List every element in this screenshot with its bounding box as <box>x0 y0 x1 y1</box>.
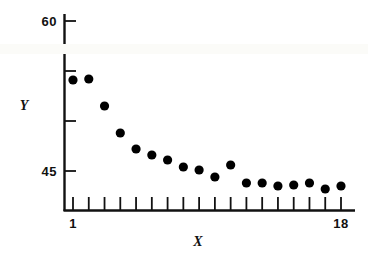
data-point <box>179 162 188 171</box>
data-point <box>116 128 125 137</box>
data-point <box>242 178 251 187</box>
data-point <box>258 178 267 187</box>
chart-canvas: 60 45 Y 1 18 X <box>0 0 368 259</box>
data-point <box>84 74 93 83</box>
data-point <box>131 144 140 153</box>
x-axis-ticks <box>73 197 341 210</box>
data-point <box>163 155 172 164</box>
data-point <box>100 101 109 110</box>
x-axis-title: X <box>192 234 203 249</box>
data-point <box>210 172 219 181</box>
data-point <box>305 178 314 187</box>
data-point <box>273 181 282 190</box>
scatter-chart-figure: 60 45 Y 1 18 X <box>0 0 368 259</box>
x-tick-label-last: 18 <box>333 216 348 231</box>
y-axis-title: Y <box>20 98 30 113</box>
y-axis-ticks <box>65 21 76 171</box>
data-point <box>336 181 345 190</box>
scatter-points-group <box>68 74 345 193</box>
y-tick-label-45: 45 <box>42 164 57 179</box>
data-point <box>321 184 330 193</box>
data-point <box>68 75 77 84</box>
data-point <box>289 180 298 189</box>
y-tick-label-60: 60 <box>42 14 57 29</box>
x-tick-label-first: 1 <box>69 216 77 231</box>
data-point <box>226 160 235 169</box>
data-point <box>195 165 204 174</box>
data-point <box>147 150 156 159</box>
